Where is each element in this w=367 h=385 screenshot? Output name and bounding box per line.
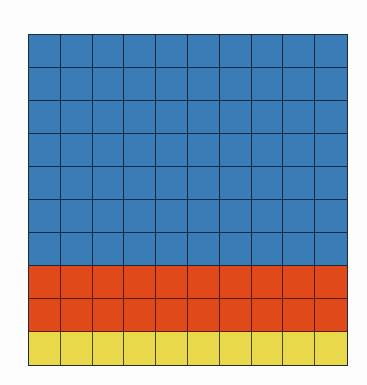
grid-cell-blue	[61, 167, 93, 200]
grid-cell-blue	[156, 200, 188, 233]
grid-cell-blue	[124, 167, 156, 200]
grid-cell-blue	[93, 134, 125, 167]
grid-cell-red	[61, 266, 93, 299]
grid-cell-blue	[93, 35, 125, 68]
grid-cell-blue	[124, 233, 156, 266]
grid-cell-red	[124, 299, 156, 332]
grid-cell-blue	[220, 200, 252, 233]
grid-cell-blue	[252, 200, 284, 233]
grid-cell-blue	[188, 35, 220, 68]
grid-cell-red	[283, 266, 315, 299]
grid-cell-blue	[61, 35, 93, 68]
grid-cell-yellow	[124, 332, 156, 365]
grid-cell-blue	[61, 233, 93, 266]
grid-cell-blue	[220, 167, 252, 200]
grid-cell-blue	[188, 167, 220, 200]
grid-cell-blue	[315, 233, 347, 266]
grid-cell-red	[29, 299, 61, 332]
grid-cell-blue	[29, 35, 61, 68]
grid-cell-yellow	[220, 332, 252, 365]
grid-cell-blue	[315, 167, 347, 200]
grid-cell-blue	[61, 68, 93, 101]
grid-cell-yellow	[315, 332, 347, 365]
grid-cell-blue	[252, 167, 284, 200]
grid-cell-blue	[252, 68, 284, 101]
grid-cell-blue	[220, 68, 252, 101]
grid-cell-red	[93, 299, 125, 332]
grid-cell-blue	[220, 101, 252, 134]
grid-cell-red	[315, 299, 347, 332]
grid-cell-blue	[283, 233, 315, 266]
grid-cell-red	[252, 299, 284, 332]
grid-cell-blue	[220, 233, 252, 266]
grid-cell-blue	[283, 134, 315, 167]
grid-cell-blue	[283, 200, 315, 233]
grid-cell-yellow	[61, 332, 93, 365]
grid-cell-blue	[156, 35, 188, 68]
grid-cell-blue	[315, 134, 347, 167]
grid-cell-blue	[156, 101, 188, 134]
grid-cell-blue	[124, 101, 156, 134]
grid-cell-blue	[156, 68, 188, 101]
grid-cell-blue	[252, 101, 284, 134]
grid-cell-blue	[283, 167, 315, 200]
grid-cell-blue	[220, 35, 252, 68]
grid-cell-blue	[188, 200, 220, 233]
grid-cell-blue	[252, 233, 284, 266]
grid-cell-blue	[124, 134, 156, 167]
grid-cell-blue	[315, 68, 347, 101]
grid-cell-blue	[315, 101, 347, 134]
grid-cell-blue	[124, 35, 156, 68]
grid-cell-blue	[283, 68, 315, 101]
grid-cell-blue	[93, 68, 125, 101]
grid-cell-red	[156, 266, 188, 299]
grid-cell-blue	[61, 101, 93, 134]
grid-cell-blue	[315, 35, 347, 68]
grid-cell-blue	[252, 134, 284, 167]
grid-cell-blue	[93, 233, 125, 266]
grid-cell-yellow	[93, 332, 125, 365]
grid-cell-blue	[124, 68, 156, 101]
grid-cell-blue	[29, 134, 61, 167]
grid-cell-blue	[124, 200, 156, 233]
grid-cell-red	[252, 266, 284, 299]
grid-cell-red	[156, 299, 188, 332]
grid-cell-red	[124, 266, 156, 299]
grid-cell-yellow	[283, 332, 315, 365]
grid-cell-red	[220, 299, 252, 332]
grid-cell-blue	[315, 200, 347, 233]
grid-cell-blue	[93, 167, 125, 200]
grid-cell-blue	[188, 68, 220, 101]
grid-cell-blue	[283, 35, 315, 68]
grid-cell-blue	[252, 35, 284, 68]
grid-cell-red	[61, 299, 93, 332]
grid-cell-red	[315, 266, 347, 299]
canvas	[0, 0, 367, 385]
percentage-grid	[28, 34, 348, 366]
grid-cell-blue	[188, 233, 220, 266]
grid-cell-blue	[29, 233, 61, 266]
grid-cell-red	[93, 266, 125, 299]
grid-cell-blue	[61, 134, 93, 167]
grid-cell-blue	[29, 101, 61, 134]
grid-cell-yellow	[252, 332, 284, 365]
grid-cell-blue	[283, 101, 315, 134]
grid-cell-blue	[188, 134, 220, 167]
grid-cell-blue	[93, 101, 125, 134]
grid-cell-blue	[220, 134, 252, 167]
grid-cell-blue	[188, 101, 220, 134]
grid-cell-red	[188, 266, 220, 299]
grid-cell-blue	[29, 200, 61, 233]
grid-cell-red	[188, 299, 220, 332]
grid-cell-red	[220, 266, 252, 299]
grid-cell-blue	[93, 200, 125, 233]
grid-cell-red	[29, 266, 61, 299]
grid-cell-blue	[156, 233, 188, 266]
grid-cell-blue	[156, 167, 188, 200]
grid-cell-yellow	[188, 332, 220, 365]
grid-cell-blue	[156, 134, 188, 167]
grid-cell-blue	[29, 68, 61, 101]
grid-cell-blue	[29, 167, 61, 200]
grid-cell-blue	[61, 200, 93, 233]
grid-cell-red	[283, 299, 315, 332]
